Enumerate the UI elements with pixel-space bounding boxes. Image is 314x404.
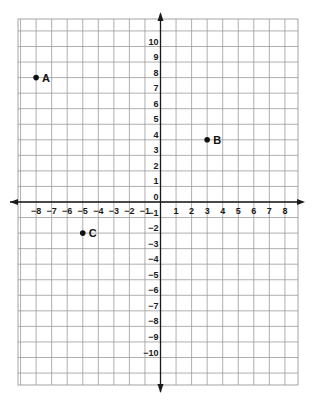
y-tick-label: 3: [153, 145, 158, 155]
y-tick-label: −7: [148, 301, 158, 311]
x-tick-label: −5: [78, 206, 88, 216]
coordinate-plane: −8−7−6−5−4−3−2−112345678 109876543210−1−…: [0, 0, 314, 404]
y-tick-label: 1: [153, 176, 158, 186]
x-tick-label: 2: [189, 206, 194, 216]
x-tick-label: −2: [124, 206, 134, 216]
y-tick-label: 4: [153, 130, 158, 140]
y-tick-label: −10: [143, 348, 158, 358]
point-dot-icon: [204, 137, 210, 143]
x-tick-label: 1: [174, 206, 179, 216]
x-tick-label: −8: [31, 206, 41, 216]
point-label: B: [213, 134, 221, 146]
x-tick-label: 8: [282, 206, 287, 216]
x-tick-label: 7: [267, 206, 272, 216]
x-tick-label: 6: [251, 206, 256, 216]
y-axis-down-arrow-icon: [158, 384, 164, 393]
y-tick-label: −2: [148, 223, 158, 233]
point-label: A: [42, 72, 50, 84]
y-axis-tick-labels: 109876543210−1−2−3−4−5−6−7−8−9−10: [143, 37, 158, 358]
y-tick-label: −1: [148, 208, 158, 218]
y-tick-label: 9: [153, 52, 158, 62]
y-tick-label: −5: [148, 270, 158, 280]
y-tick-label: −6: [148, 285, 158, 295]
y-tick-label: 8: [153, 68, 158, 78]
x-axis-right-arrow-icon: [297, 199, 305, 205]
x-tick-label: 3: [205, 206, 210, 216]
x-tick-label: −7: [47, 206, 57, 216]
y-tick-label: −3: [148, 239, 158, 249]
y-tick-label: 2: [153, 161, 158, 171]
x-tick-label: −6: [62, 206, 72, 216]
y-tick-label: −8: [148, 316, 158, 326]
y-tick-label: 0: [153, 192, 158, 202]
y-tick-label: 6: [153, 99, 158, 109]
y-tick-label: 10: [148, 37, 158, 47]
x-tick-label: 4: [220, 206, 225, 216]
x-tick-label: −3: [109, 206, 119, 216]
x-axis-left-arrow-icon: [10, 199, 18, 205]
x-tick-label: 5: [236, 206, 241, 216]
point-dot-icon: [80, 230, 86, 236]
x-tick-label: −4: [93, 206, 103, 216]
y-axis-up-arrow-icon: [158, 12, 164, 21]
point-dot-icon: [33, 75, 39, 81]
y-tick-label: 7: [153, 83, 158, 93]
y-tick-label: −4: [148, 254, 158, 264]
point-label: C: [89, 227, 97, 239]
y-tick-label: −9: [148, 332, 158, 342]
y-tick-label: 5: [153, 114, 158, 124]
x-axis-tick-labels: −8−7−6−5−4−3−2−112345678: [31, 206, 287, 216]
